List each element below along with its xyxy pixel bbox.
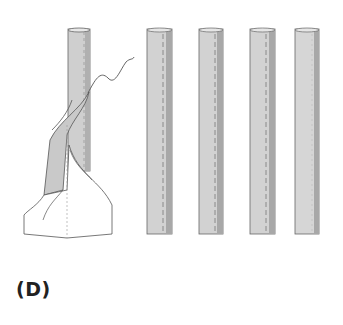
finished-tube-3 — [250, 28, 275, 234]
finished-tube-2 — [199, 28, 223, 234]
finished-tube-4 — [295, 28, 319, 234]
diagram-canvas — [0, 0, 343, 325]
finished-tube-1 — [147, 28, 172, 234]
rod-with-fabric — [24, 28, 134, 238]
figure-label: (D) — [16, 278, 51, 300]
